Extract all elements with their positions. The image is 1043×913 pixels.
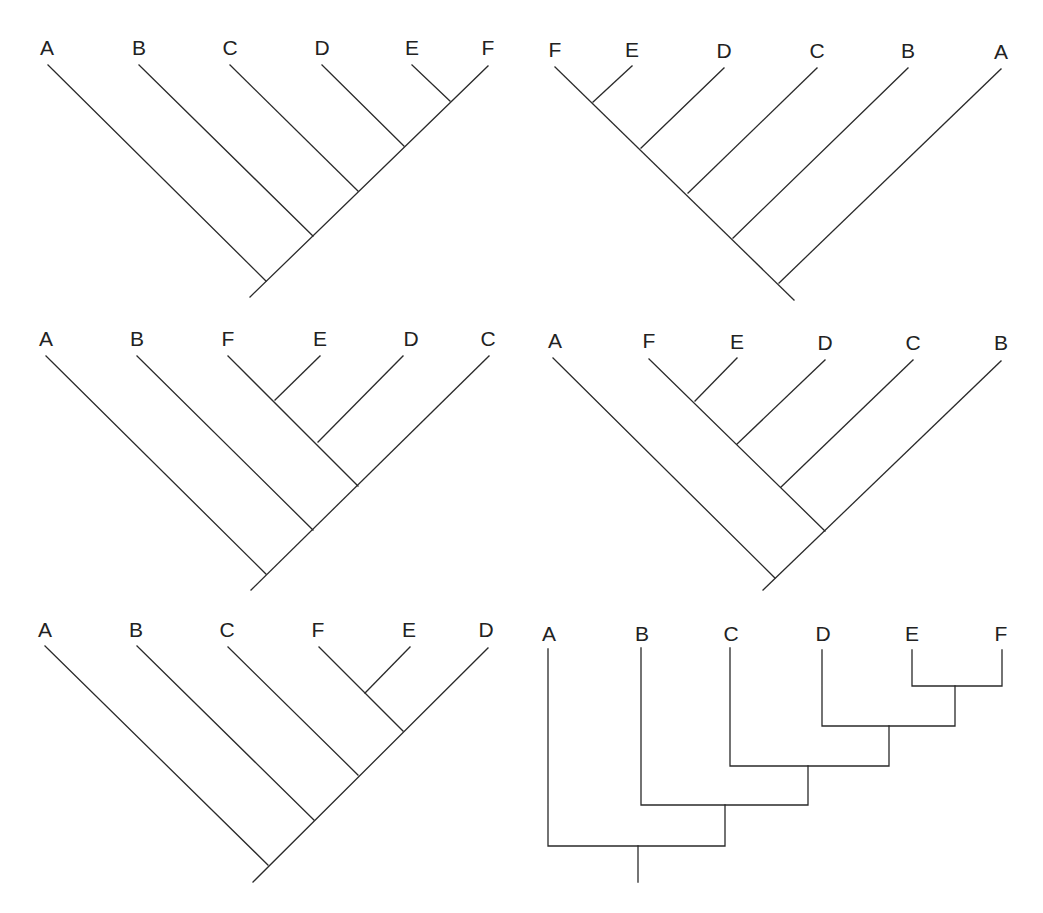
spine-branch xyxy=(253,648,488,882)
tip-label: E xyxy=(405,36,419,59)
branch-d xyxy=(737,360,825,444)
tip-label: A xyxy=(542,622,556,645)
branch-b xyxy=(139,65,313,236)
tip-label: D xyxy=(716,39,731,62)
branch-c xyxy=(688,68,817,193)
branch-e xyxy=(412,65,450,101)
tip-label: F xyxy=(222,327,235,350)
tip-label: E xyxy=(625,38,639,61)
branch-e xyxy=(275,356,320,400)
branch-a xyxy=(548,649,725,846)
cladogram-figure: A B C D E F F E D C B A A B F E D C xyxy=(0,0,1043,913)
branch-d xyxy=(322,65,404,146)
branch-e xyxy=(695,358,737,401)
branch-d xyxy=(641,68,724,148)
tip-label: D xyxy=(817,331,832,354)
branch-b xyxy=(733,68,908,238)
tip-label: E xyxy=(402,618,416,641)
tip-label: A xyxy=(994,40,1008,63)
tip-label: E xyxy=(313,327,327,350)
spine-branch xyxy=(763,361,1001,590)
tree-4: A F E D C B xyxy=(548,329,1008,590)
branch-a xyxy=(48,65,266,281)
tree-5: A B C F E D xyxy=(38,618,494,882)
branch-e xyxy=(365,647,410,693)
tip-label: B xyxy=(129,618,143,641)
branch-f xyxy=(319,647,403,731)
tip-label: B xyxy=(635,622,649,645)
branch-b xyxy=(641,648,808,805)
tip-label: F xyxy=(482,36,495,59)
tip-label: F xyxy=(549,38,562,61)
tree-3: A B F E D C xyxy=(39,327,496,590)
tip-label: B xyxy=(132,36,146,59)
spine-branch xyxy=(250,66,488,297)
tip-label: D xyxy=(403,327,418,350)
branch-c xyxy=(730,648,889,766)
tree-2: F E D C B A xyxy=(549,38,1008,300)
branch-a xyxy=(779,69,1001,283)
tip-label: D xyxy=(815,622,830,645)
tree-1: A B C D E F xyxy=(40,36,494,297)
tip-label: A xyxy=(40,36,54,59)
tip-label: D xyxy=(478,618,493,641)
spine-branch xyxy=(555,67,794,300)
branch-d xyxy=(822,650,955,726)
tip-label: C xyxy=(480,327,495,350)
tip-label: A xyxy=(39,327,53,350)
tip-label: C xyxy=(905,331,920,354)
branch-e xyxy=(593,66,632,102)
branch-ef xyxy=(912,650,1002,686)
branch-a xyxy=(553,358,775,578)
branch-c xyxy=(781,360,913,487)
tip-label: C xyxy=(809,39,824,62)
tip-label: F xyxy=(995,622,1008,645)
spine-branch xyxy=(251,356,489,590)
tip-label: D xyxy=(314,36,329,59)
tip-label: B xyxy=(130,327,144,350)
branch-d xyxy=(318,356,403,442)
tip-label: E xyxy=(730,330,744,353)
branch-c xyxy=(230,65,358,191)
tip-label: A xyxy=(548,329,562,352)
tip-label: B xyxy=(901,39,915,62)
branch-a xyxy=(45,646,268,865)
branch-b xyxy=(137,356,313,530)
tip-label: A xyxy=(38,618,52,641)
tip-label: B xyxy=(994,331,1008,354)
tip-label: C xyxy=(222,36,237,59)
tree-6: A B C D E F xyxy=(542,622,1007,882)
tip-label: F xyxy=(643,329,656,352)
branch-a xyxy=(46,356,266,574)
tip-label: C xyxy=(723,622,738,645)
tip-label: F xyxy=(312,618,325,641)
tip-label: E xyxy=(905,622,919,645)
tip-label: C xyxy=(219,618,234,641)
branch-b xyxy=(137,646,314,820)
